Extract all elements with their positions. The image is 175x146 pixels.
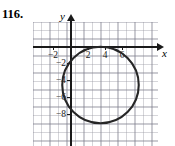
curve-layer (0, 0, 175, 146)
coordinate-graph: y x −2 2 4 6 −2 −4 −6 −8 (0, 0, 175, 146)
circle-curve (62, 47, 139, 124)
figure-container: 116. y x −2 2 4 6 −2 −4 −6 −8 (0, 0, 175, 146)
